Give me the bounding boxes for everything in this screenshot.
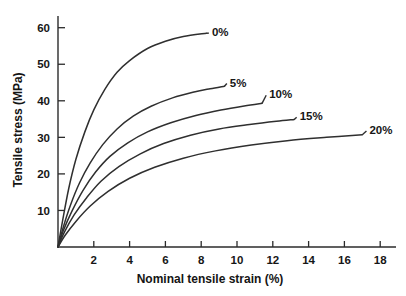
x-tick-label: 4 [126,254,133,266]
x-tick-label: 14 [302,254,315,266]
leader-20pct [362,131,366,135]
x-tick-label: 18 [374,254,387,266]
curve-20pct [58,135,362,247]
leader-15pct [294,117,296,119]
tick-labels-group: 10203040506024681012141618 [37,22,387,266]
series-label-20pct: 20% [369,124,392,136]
series-label-0pct: 0% [212,26,229,38]
y-tick-label: 10 [37,205,50,217]
stress-strain-chart: 10203040506024681012141618 0%5%10%15%20%… [0,0,406,296]
curves-group [58,33,362,247]
y-tick-label: 30 [37,132,50,144]
x-tick-label: 8 [198,254,205,266]
series-label-10pct: 10% [269,88,292,100]
leader-10pct [262,95,266,103]
curve-15pct [58,119,294,247]
series-label-15pct: 15% [300,110,323,122]
x-tick-label: 16 [338,254,351,266]
x-tick-label: 12 [266,254,279,266]
leader-5pct [224,84,226,87]
chart-figure: 10203040506024681012141618 0%5%10%15%20%… [0,0,406,296]
y-tick-label: 40 [37,95,50,107]
x-axis-title: Nominal tensile strain (%) [137,272,284,286]
series-label-5pct: 5% [230,77,247,89]
curve-10pct [58,103,262,247]
x-tick-label: 10 [231,254,244,266]
y-tick-label: 50 [37,58,50,70]
y-axis-title: Tensile stress (MPa) [11,72,25,187]
x-tick-label: 2 [91,254,97,266]
series-labels-group: 0%5%10%15%20% [212,26,393,136]
y-tick-label: 20 [37,168,50,180]
y-tick-label: 60 [37,22,50,34]
curve-5pct [58,86,224,247]
x-tick-label: 6 [162,254,168,266]
axes-group [58,16,396,247]
